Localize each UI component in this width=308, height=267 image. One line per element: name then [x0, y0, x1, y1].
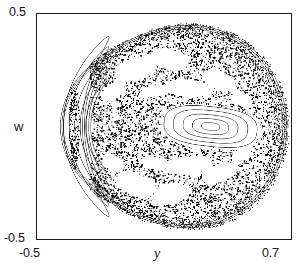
x-axis-tick-max: 0.7 [262, 247, 279, 260]
y-axis-label: w [14, 120, 23, 133]
y-axis-tick-min: -0.5 [4, 232, 25, 245]
poincare-scatter-canvas [37, 14, 291, 239]
x-axis-tick-min: -0.5 [19, 247, 40, 260]
plot-frame [36, 13, 292, 240]
x-axis-label: y [154, 247, 160, 261]
y-axis-tick-max: 0.5 [9, 6, 26, 19]
poincare-section-figure: 0.5 -0.5 -0.5 0.7 w y [0, 0, 308, 267]
